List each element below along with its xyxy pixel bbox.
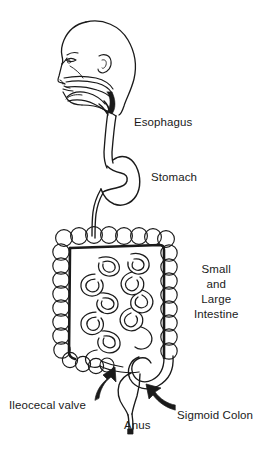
label-ileocecal-valve: Ileocecal valve [9, 399, 86, 413]
pharynx [99, 92, 115, 115]
label-intestine-line-2: and [194, 277, 238, 292]
colon-inner-outline [69, 245, 164, 359]
label-intestine-line-4: Intestine [194, 307, 238, 322]
head-profile [58, 21, 136, 116]
label-sigmoid-colon: Sigmoid Colon [177, 409, 253, 423]
eye-and-brow [66, 53, 83, 78]
stomach [101, 156, 140, 205]
label-stomach: Stomach [151, 171, 197, 185]
small-intestine-coils [81, 253, 153, 372]
label-anus: Anus [124, 419, 151, 433]
label-esophagus: Esophagus [134, 116, 192, 130]
ear [98, 55, 111, 73]
label-intestine-line-1: Small [194, 262, 238, 277]
anatomy-illustration [0, 0, 274, 451]
label-intestine-line-3: Large [194, 292, 238, 307]
arrow-sigmoid-colon [146, 384, 175, 410]
label-small-and-large-intestine: Small and Large Intestine [194, 262, 238, 322]
digestive-system-figure: Esophagus Stomach Small and Large Intest… [0, 0, 274, 451]
